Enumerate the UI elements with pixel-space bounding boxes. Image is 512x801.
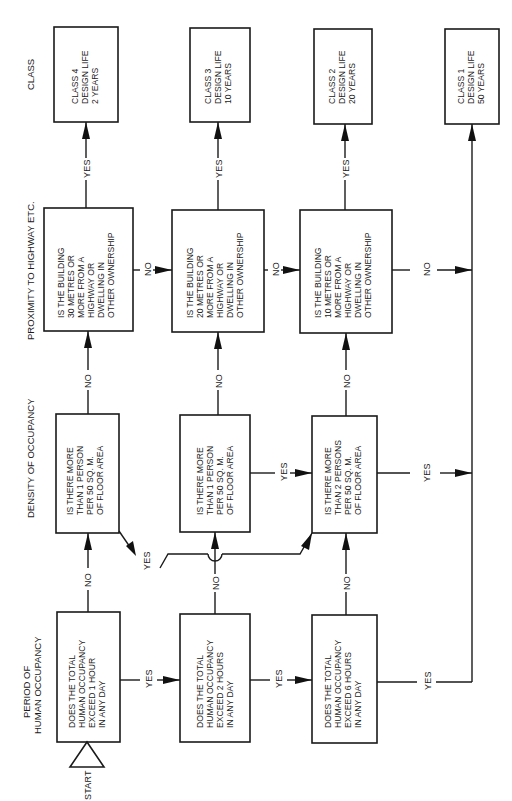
svg-text:DOES THE TOTAL: DOES THE TOTAL (67, 655, 77, 728)
svg-text:DWELLING IN: DWELLING IN (96, 262, 106, 318)
svg-text:OF FLOOR AREA: OF FLOOR AREA (353, 445, 363, 515)
svg-text:NO: NO (83, 374, 93, 388)
svg-text:YES: YES (341, 159, 351, 178)
edge-trunk-class1 (468, 124, 476, 682)
svg-text:CLASS 1: CLASS 1 (456, 68, 466, 104)
svg-text:NO: NO (271, 262, 281, 276)
svg-text:10 METRES OR: 10 METRES OR (323, 255, 333, 318)
edge-occ2-no: NO (211, 532, 221, 614)
svg-text:HIGHWAY OR: HIGHWAY OR (215, 263, 225, 318)
start-label: START (83, 770, 93, 800)
svg-text:20 METRES OR: 20 METRES OR (195, 255, 205, 318)
svg-text:OF FLOOR AREA: OF FLOOR AREA (95, 445, 105, 515)
edge-den2-no: NO (342, 333, 352, 416)
svg-text:IN ANY DAY: IN ANY DAY (225, 680, 235, 728)
svg-text:NO: NO (342, 576, 352, 590)
svg-text:HUMAN OCCUPANCY: HUMAN OCCUPANCY (77, 640, 87, 728)
svg-text:NO: NO (422, 262, 432, 276)
edge-occ6-no: NO (342, 533, 352, 615)
svg-text:EXCEED 6 HOURS: EXCEED 6 HOURS (343, 652, 353, 728)
svg-text:OTHER OWNERSHIP: OTHER OWNERSHIP (363, 232, 373, 318)
svg-text:OF FLOOR AREA: OF FLOOR AREA (225, 445, 235, 515)
svg-text:DOES THE TOTAL: DOES THE TOTAL (323, 655, 333, 728)
edge-occ6-yes: YES (377, 671, 472, 690)
svg-text:MORE FROM A: MORE FROM A (76, 257, 86, 318)
svg-text:DESIGN LIFE: DESIGN LIFE (466, 50, 476, 104)
svg-text:YES: YES (279, 462, 289, 481)
svg-text:50 YEARS: 50 YEARS (476, 63, 486, 104)
svg-text:30 METRES OR: 30 METRES OR (66, 255, 76, 318)
svg-text:PER 50 SQ. M.: PER 50 SQ. M. (215, 456, 225, 515)
svg-text:IS THERE MORE: IS THERE MORE (323, 447, 333, 515)
svg-text:NO: NO (143, 262, 153, 276)
svg-text:THAN 1 PERSON: THAN 1 PERSON (205, 446, 215, 515)
svg-text:MORE FROM A: MORE FROM A (205, 257, 215, 318)
edge-prox30-no: NO (133, 262, 172, 276)
flowchart: PERIOD OF HUMAN OCCUPANCY DENSITY OF OCC… (0, 0, 512, 801)
edge-prox30-yes: YES (82, 122, 92, 208)
svg-text:EXCEED 2 HOURS: EXCEED 2 HOURS (215, 652, 225, 728)
svg-text:OTHER OWNERSHIP: OTHER OWNERSHIP (106, 232, 116, 318)
svg-text:YES: YES (142, 551, 152, 570)
svg-text:OTHER OWNERSHIP: OTHER OWNERSHIP (235, 232, 245, 318)
svg-text:HUMAN OCCUPANCY: HUMAN OCCUPANCY (205, 640, 215, 728)
svg-text:YES: YES (144, 669, 154, 688)
svg-text:DOES THE TOTAL: DOES THE TOTAL (195, 655, 205, 728)
svg-text:YES: YES (422, 463, 432, 482)
svg-text:YES: YES (82, 159, 92, 178)
svg-text:YES: YES (423, 671, 433, 690)
svg-text:NO: NO (211, 576, 221, 590)
header-proximity: PROXIMITY TO HIGHWAY ETC. (25, 201, 36, 340)
edge-prox10-yes: YES (341, 124, 351, 210)
edge-occ2-yes: YES (250, 669, 312, 688)
edge-prox20-no: NO (264, 262, 300, 276)
header-class: CLASS (25, 59, 36, 90)
svg-text:10 YEARS: 10 YEARS (223, 63, 233, 104)
svg-text:NO: NO (214, 374, 224, 388)
header-period-line1: PERIOD OF (21, 666, 32, 718)
edge-den1b-no: NO (214, 332, 224, 415)
svg-text:THAN 1 PERSON: THAN 1 PERSON (75, 446, 85, 515)
header-density: DENSITY OF OCCUPANCY (25, 398, 36, 518)
edge-den2-yes: YES (377, 463, 472, 482)
svg-text:IS THERE MORE: IS THERE MORE (195, 447, 205, 515)
svg-text:YES: YES (274, 669, 284, 688)
svg-text:THAN 2 PERSONS: THAN 2 PERSONS (333, 440, 343, 515)
svg-text:IN ANY DAY: IN ANY DAY (97, 680, 107, 728)
svg-text:HIGHWAY OR: HIGHWAY OR (86, 263, 96, 318)
edge-prox10-no: NO (392, 262, 472, 276)
svg-text:YES: YES (214, 159, 224, 178)
svg-text:NO: NO (342, 374, 352, 388)
edge-den1b-yes: YES (250, 462, 312, 481)
svg-text:NO: NO (83, 573, 93, 587)
edge-occ1-yes: YES (120, 669, 180, 688)
svg-text:CLASS 2: CLASS 2 (327, 68, 337, 104)
svg-text:2 YEARS: 2 YEARS (90, 68, 100, 104)
svg-text:IS THE BUILDING: IS THE BUILDING (313, 247, 323, 318)
edge-prox20-yes: YES (214, 122, 224, 210)
svg-text:PER 50 SQ. M.: PER 50 SQ. M. (85, 456, 95, 515)
svg-text:IN ANY DAY: IN ANY DAY (353, 680, 363, 728)
svg-text:DESIGN LIFE: DESIGN LIFE (80, 50, 90, 104)
svg-text:HUMAN OCCUPANCY: HUMAN OCCUPANCY (333, 640, 343, 728)
svg-text:CLASS 3: CLASS 3 (203, 68, 213, 104)
svg-text:DWELLING IN: DWELLING IN (353, 262, 363, 318)
svg-text:DESIGN LIFE: DESIGN LIFE (213, 50, 223, 104)
svg-text:IS THE BUILDING: IS THE BUILDING (185, 247, 195, 318)
edge-occ1-no: NO (83, 533, 93, 612)
edge-den1a-no: NO (83, 331, 93, 414)
svg-text:DWELLING IN: DWELLING IN (225, 262, 235, 318)
svg-text:HIGHWAY OR: HIGHWAY OR (343, 263, 353, 318)
start-triangle-icon (70, 742, 104, 767)
svg-text:MORE FROM A: MORE FROM A (333, 257, 343, 318)
svg-text:IS THERE MORE: IS THERE MORE (65, 447, 75, 515)
svg-text:PER 50 SQ. M.: PER 50 SQ. M. (343, 456, 353, 515)
header-period-line2: HUMAN OCCUPANCY (32, 636, 43, 734)
svg-text:CLASS 4: CLASS 4 (70, 68, 80, 104)
svg-text:IS THE BUILDING: IS THE BUILDING (56, 247, 66, 318)
svg-text:EXCEED 1 HOUR: EXCEED 1 HOUR (87, 658, 97, 728)
svg-text:20 YEARS: 20 YEARS (347, 63, 357, 104)
header-period: PERIOD OF HUMAN OCCUPANCY (21, 636, 43, 734)
svg-text:DESIGN LIFE: DESIGN LIFE (337, 50, 347, 104)
